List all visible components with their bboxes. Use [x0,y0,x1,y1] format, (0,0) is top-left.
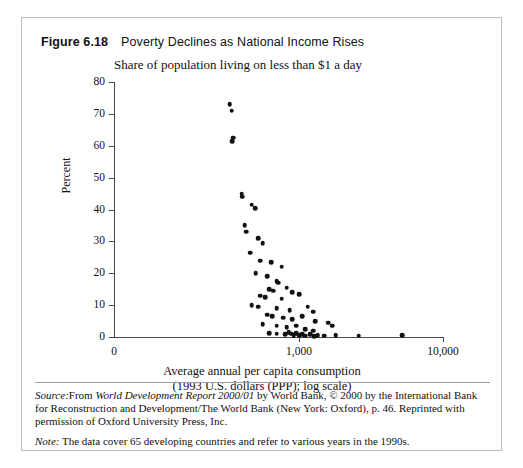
y-tick: 10 [75,305,105,306]
data-point [242,223,247,228]
data-point [231,135,236,140]
source-note: Source:From World Development Report 200… [35,389,490,429]
x-axis-line [114,337,443,338]
data-point [269,260,274,265]
y-tick-mark [109,114,114,115]
y-tick-label: 60 [79,140,105,152]
data-point [356,333,361,338]
data-point [276,281,281,286]
data-point [267,331,272,336]
data-point [271,288,276,293]
x-tick-mark [443,337,444,342]
data-point [297,292,302,297]
y-tick-mark [109,82,114,83]
y-tick-mark [109,178,114,179]
data-point [294,324,299,329]
data-point [253,271,258,276]
data-point [229,108,234,113]
y-tick: 70 [75,114,105,115]
y-tick-label: 10 [79,299,105,311]
y-tick-label: 30 [79,235,105,247]
note-label: Note: [35,435,59,447]
y-axis-line [114,82,115,337]
notes-divider [35,382,490,383]
x-tick-label: 0 [111,345,117,357]
x-tick-label: 10,000 [427,345,459,357]
y-tick-mark [109,305,114,306]
data-point [287,308,292,313]
data-point [281,316,286,321]
source-label: Source: [35,389,69,401]
data-point [244,230,249,235]
y-tick-mark [109,210,114,211]
y-tick: 40 [75,210,105,211]
data-point [260,241,265,246]
data-point [249,303,254,308]
y-tick: 60 [75,146,105,147]
source-publication: World Development Report 2000/01 [95,389,254,401]
data-point [253,206,258,211]
data-note: Note: The data cover 65 developing count… [35,435,490,448]
data-point [227,102,232,107]
data-point [303,327,308,332]
note-text: The data cover 65 developing countries a… [59,435,409,447]
data-point [263,295,268,300]
data-point [333,333,338,338]
data-point [248,250,253,255]
x-axis-label-line1: Average annual per capita consumption [163,364,361,378]
y-tick: 0 [75,337,105,338]
source-text-1: From [69,389,96,401]
data-point [400,333,405,338]
data-point [270,314,275,319]
y-tick-label: 70 [79,108,105,120]
data-point [256,236,261,241]
x-tick-mark [299,337,300,342]
figure-container: Figure 6.18Poverty Declines as National … [21,17,502,451]
y-tick-label: 0 [79,331,105,343]
data-point [300,314,305,319]
y-tick-mark [109,241,114,242]
data-point [274,332,279,337]
y-tick-label: 50 [79,172,105,184]
data-point [265,274,270,279]
y-tick: 80 [75,82,105,83]
y-tick-mark [109,337,114,338]
y-axis-label: Percent [59,131,74,221]
data-point [311,309,316,314]
data-point [290,317,295,322]
data-point [313,319,318,324]
y-tick: 30 [75,241,105,242]
y-tick-mark [109,273,114,274]
data-point [240,194,245,199]
y-tick-label: 40 [79,204,105,216]
data-point [315,333,320,338]
y-tick-label: 20 [79,267,105,279]
data-point [260,322,265,327]
y-tick: 50 [75,178,105,179]
data-point [280,296,285,301]
data-point [274,306,279,311]
data-point [258,258,263,263]
data-point [256,304,261,309]
figure-notes: Source:From World Development Report 200… [35,382,490,448]
y-tick-label: 80 [79,76,105,88]
data-point [280,265,285,270]
y-tick: 20 [75,273,105,274]
y-tick-mark [109,146,114,147]
data-point [305,304,310,309]
data-point [284,285,289,290]
data-point [322,333,327,338]
data-point [330,324,335,329]
data-point [290,290,295,295]
data-point [265,312,270,317]
x-tick-label: 1,000 [286,345,312,357]
data-point [303,333,308,338]
data-point [274,324,279,329]
